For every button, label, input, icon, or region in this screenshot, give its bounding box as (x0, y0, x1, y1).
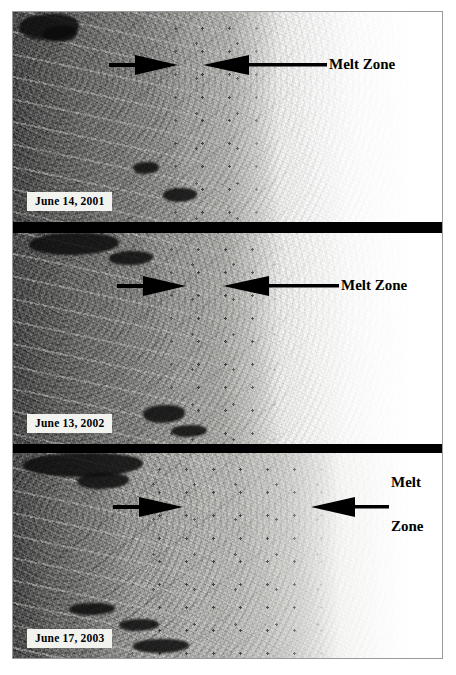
melt-word-text: Melt (391, 474, 421, 490)
melt-zone-arrow-right-2001 (201, 54, 327, 76)
image-panel-2003: Melt Zone June 17, 2003 (13, 453, 442, 658)
figure-root: Melt Zone June 14, 2001 (0, 0, 456, 675)
figure-frame: Melt Zone June 14, 2001 (12, 11, 443, 659)
melt-zone-annotation-2003-line2: Zone (391, 518, 424, 535)
melt-zone-arrow-left-2002 (117, 275, 189, 297)
sar-imagery-2002 (13, 233, 442, 444)
date-label-text: June 17, 2003 (35, 632, 104, 644)
melt-zone-arrow-left-2003 (113, 496, 187, 518)
date-label-text: June 14, 2001 (35, 195, 104, 207)
melt-zone-arrow-right-2002 (221, 275, 339, 297)
melt-zone-annotation-2003-line1: Melt (391, 474, 421, 491)
sar-imagery-2001 (13, 12, 442, 222)
melt-zone-label-text: Melt Zone (341, 277, 407, 293)
date-label-text: June 13, 2002 (35, 417, 104, 429)
panel-separator-1 (13, 222, 442, 233)
melt-zone-annotation-2002: Melt Zone (341, 277, 407, 294)
melt-zone-annotation-2001: Melt Zone (329, 56, 395, 73)
melt-zone-arrow-right-2003 (309, 496, 389, 518)
melt-zone-arrow-left-2001 (109, 54, 181, 76)
date-label-2002: June 13, 2002 (27, 414, 112, 433)
date-label-2001: June 14, 2001 (27, 192, 112, 211)
date-label-2003: June 17, 2003 (27, 629, 112, 648)
zone-word-text: Zone (391, 518, 424, 534)
image-panel-2002: Melt Zone June 13, 2002 (13, 233, 442, 444)
image-panel-2001: Melt Zone June 14, 2001 (13, 12, 442, 222)
melt-zone-label-text: Melt Zone (329, 56, 395, 72)
sar-imagery-2003 (13, 453, 442, 658)
panel-separator-2 (13, 444, 442, 453)
